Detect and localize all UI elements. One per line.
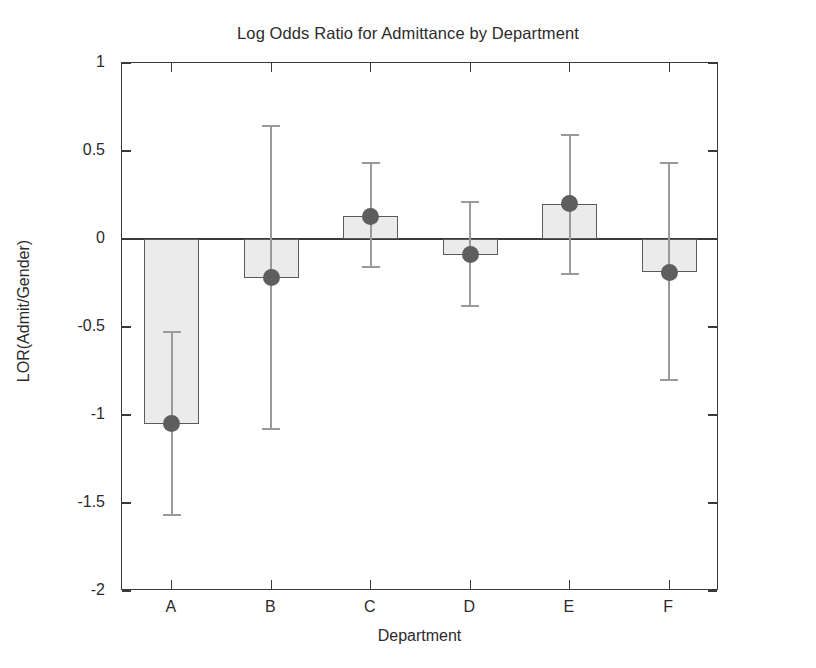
x-axis-tick-label: B bbox=[250, 598, 290, 616]
y-axis-tick-right bbox=[708, 62, 717, 63]
y-axis-tick bbox=[122, 414, 131, 415]
y-axis-tick bbox=[122, 150, 131, 151]
x-axis-tick bbox=[669, 580, 670, 589]
y-axis-tick-label: 0.5 bbox=[83, 141, 105, 159]
x-axis-tick bbox=[171, 580, 172, 589]
x-axis-tick-top bbox=[171, 63, 172, 72]
x-axis-tick bbox=[370, 580, 371, 589]
y-axis-tick-label: -1 bbox=[91, 405, 105, 423]
error-bar-cap-upper bbox=[561, 134, 579, 136]
error-bar-cap-upper bbox=[461, 201, 479, 203]
y-axis-tick-right bbox=[708, 590, 717, 591]
y-axis-tick-right bbox=[708, 238, 717, 239]
y-axis-tick bbox=[122, 590, 131, 591]
data-point-d bbox=[462, 246, 479, 263]
x-axis-tick-label: D bbox=[449, 598, 489, 616]
x-axis-tick-label: E bbox=[549, 598, 589, 616]
plot-area bbox=[121, 62, 718, 590]
chart-title: Log Odds Ratio for Admittance by Departm… bbox=[0, 24, 816, 43]
error-bar-cap-lower bbox=[362, 266, 380, 268]
error-bar-cap-upper bbox=[163, 331, 181, 333]
x-axis-tick-label: C bbox=[350, 598, 390, 616]
data-point-a bbox=[163, 415, 180, 432]
y-axis-tick-label: -1.5 bbox=[77, 493, 105, 511]
y-axis-tick-right bbox=[708, 326, 717, 327]
x-axis-tick bbox=[569, 580, 570, 589]
y-axis-tick-right bbox=[708, 150, 717, 151]
x-axis-tick-top bbox=[669, 63, 670, 72]
x-axis-label: Department bbox=[121, 627, 718, 645]
x-axis-tick-top bbox=[370, 63, 371, 72]
data-point-b bbox=[263, 269, 280, 286]
x-axis-tick-top bbox=[470, 63, 471, 72]
x-axis-tick-top bbox=[271, 63, 272, 72]
x-axis-tick-label: F bbox=[648, 598, 688, 616]
error-bar-cap-upper bbox=[262, 125, 280, 127]
x-axis-tick bbox=[470, 580, 471, 589]
error-bar-cap-lower bbox=[660, 379, 678, 381]
y-axis-tick bbox=[122, 502, 131, 503]
error-bar-cap-upper bbox=[660, 162, 678, 164]
figure: Log Odds Ratio for Admittance by Departm… bbox=[0, 0, 816, 668]
y-axis-tick-right bbox=[708, 414, 717, 415]
y-axis-tick-label: -2 bbox=[91, 581, 105, 599]
y-axis-tick bbox=[122, 238, 131, 239]
x-axis-tick-top bbox=[569, 63, 570, 72]
error-bar-cap-lower bbox=[163, 514, 181, 516]
error-bar-cap-upper bbox=[362, 162, 380, 164]
y-axis-tick-label: 1 bbox=[96, 53, 105, 71]
x-axis-tick bbox=[271, 580, 272, 589]
data-point-c bbox=[362, 208, 379, 225]
y-axis-tick-label: 0 bbox=[96, 229, 105, 247]
y-axis-tick-label: -0.5 bbox=[77, 317, 105, 335]
error-bar-cap-lower bbox=[461, 305, 479, 307]
zero-baseline bbox=[122, 238, 717, 239]
error-bar-cap-lower bbox=[262, 428, 280, 430]
y-axis-label: LOR(Admit/Gender) bbox=[15, 201, 33, 421]
y-axis-tick bbox=[122, 326, 131, 327]
x-axis-tick-label: A bbox=[151, 598, 191, 616]
error-bar-cap-lower bbox=[561, 273, 579, 275]
y-axis-tick-right bbox=[708, 502, 717, 503]
y-axis-tick bbox=[122, 62, 131, 63]
data-point-f bbox=[661, 264, 678, 281]
